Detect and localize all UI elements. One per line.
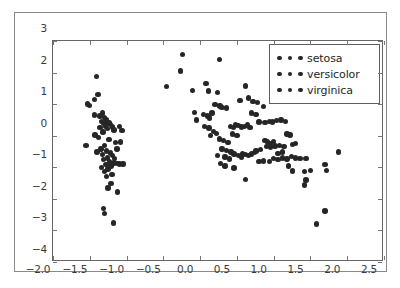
x-axis-tick [274, 41, 275, 45]
data-point [302, 169, 307, 174]
data-point [290, 168, 295, 173]
x-axis-tick [310, 256, 311, 260]
figure-border: setosaversicolorvirginica −2.0−1.5−1.0−0… [14, 12, 387, 272]
y-tick-label: 3 [15, 22, 47, 34]
data-point [83, 143, 88, 148]
data-point [231, 165, 236, 170]
x-axis-tick [237, 41, 238, 45]
x-axis-tick [310, 41, 311, 45]
data-point [239, 154, 244, 159]
data-point [243, 177, 248, 182]
data-point [100, 129, 105, 134]
x-axis-tick [384, 41, 385, 45]
plot-axes-frame: setosaversicolorvirginica [52, 40, 383, 261]
data-point [178, 68, 183, 73]
y-axis-tick [53, 104, 57, 105]
data-point [303, 156, 308, 161]
data-point [255, 100, 260, 105]
data-point [247, 125, 252, 130]
legend-item-virginica[interactable]: virginica [277, 82, 372, 98]
data-point [192, 110, 197, 115]
y-tick-label: 1 [15, 85, 47, 97]
legend-item-versicolor[interactable]: versicolor [277, 66, 372, 82]
legend-item-setosa[interactable]: setosa [277, 50, 372, 66]
x-axis-tick [347, 256, 348, 260]
y-tick-label: −2 [15, 180, 47, 192]
data-point [96, 135, 101, 140]
x-tick-label: 0.5 [214, 263, 230, 275]
data-point [224, 105, 229, 110]
y-axis-tick [53, 199, 57, 200]
data-point [256, 119, 261, 124]
data-point [209, 110, 214, 115]
x-tick-label: −1.0 [99, 263, 124, 275]
y-axis-tick [378, 41, 382, 42]
x-tick-label: 2.5 [361, 263, 377, 275]
y-axis-tick [378, 167, 382, 168]
x-axis-tick [127, 41, 128, 45]
data-point [336, 149, 341, 154]
data-point [95, 92, 100, 97]
data-point [324, 168, 329, 173]
data-point [208, 133, 213, 138]
data-point [118, 139, 123, 144]
y-axis-tick [378, 262, 382, 263]
x-tick-label: −1.5 [62, 263, 87, 275]
x-axis-tick [200, 256, 201, 260]
y-axis-tick [53, 73, 57, 74]
data-point [217, 57, 222, 62]
y-axis-tick [378, 230, 382, 231]
data-point [111, 127, 116, 132]
x-tick-label: 0.0 [177, 263, 193, 275]
data-point [102, 211, 107, 216]
data-point [115, 189, 120, 194]
data-point [253, 112, 258, 117]
data-point [203, 81, 208, 86]
y-tick-label: −3 [15, 211, 47, 223]
y-axis-tick [53, 262, 57, 263]
data-point [261, 158, 266, 163]
legend-label: setosa [307, 52, 342, 65]
data-point [92, 97, 97, 102]
x-axis-tick [90, 256, 91, 260]
x-axis-tick [347, 41, 348, 45]
y-tick-label: −4 [15, 243, 47, 255]
data-point [119, 128, 124, 133]
legend-marker-versicolor [277, 72, 307, 77]
data-point [322, 208, 327, 213]
y-axis-tick [378, 73, 382, 74]
y-axis-tick [378, 136, 382, 137]
data-point [104, 174, 109, 179]
x-axis-tick [53, 256, 54, 260]
x-tick-label: 1.0 [251, 263, 267, 275]
data-point [105, 185, 110, 190]
data-point [258, 147, 263, 152]
x-tick-label: 2.0 [324, 263, 340, 275]
y-axis-tick [53, 167, 57, 168]
data-point [206, 88, 211, 93]
data-point [207, 115, 212, 120]
x-axis-tick [127, 256, 128, 260]
data-point [164, 84, 169, 89]
data-point [111, 220, 116, 225]
data-point [227, 156, 232, 161]
x-axis-tick [384, 256, 385, 260]
data-point [297, 156, 302, 161]
y-tick-label: 0 [15, 117, 47, 129]
data-point [215, 90, 220, 95]
data-point [92, 112, 97, 117]
data-point [106, 137, 111, 142]
data-point [308, 168, 313, 173]
data-point [94, 149, 99, 154]
legend-label: versicolor [307, 68, 360, 81]
data-point [114, 146, 119, 151]
legend-box: setosaversicolorvirginica [269, 44, 380, 104]
data-point [293, 141, 298, 146]
y-axis-tick [53, 136, 57, 137]
x-axis-tick [237, 256, 238, 260]
data-point [234, 133, 239, 138]
legend-label: virginica [307, 84, 353, 97]
data-point [109, 172, 114, 177]
data-point [222, 163, 227, 168]
data-point [283, 119, 288, 124]
